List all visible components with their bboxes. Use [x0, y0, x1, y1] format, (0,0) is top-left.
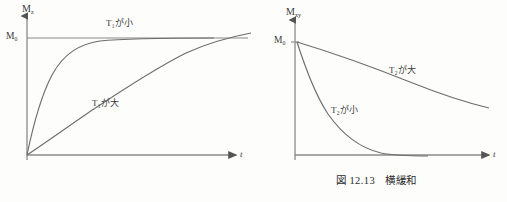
y-axis-label-right: Mxy — [286, 7, 301, 17]
chart-longitudinal-relaxation — [27, 16, 251, 160]
figure-caption: 図 12.13 横緩和 — [336, 172, 417, 187]
curve-label-t2-small: T2が小 — [331, 106, 358, 115]
curve-t1-small — [27, 38, 214, 155]
curve-label-t1-large: T1が大 — [92, 99, 119, 108]
x-axis-label-left: t — [240, 150, 243, 159]
x-axis-label-right: t — [493, 150, 496, 159]
m0-label-right: M0 — [274, 36, 285, 46]
m0-label-left: M0 — [6, 32, 17, 42]
curve-label-t2-large: T2が大 — [389, 66, 416, 75]
curve-t2-large — [297, 42, 489, 108]
curve-label-t1-small: T1が小 — [106, 19, 133, 28]
curve-t2-small — [297, 42, 428, 156]
chart-transverse-relaxation — [291, 20, 489, 160]
curve-t1-large — [27, 33, 251, 155]
relaxation-figure — [0, 0, 507, 202]
y-axis-label-left: Mz — [22, 4, 34, 14]
